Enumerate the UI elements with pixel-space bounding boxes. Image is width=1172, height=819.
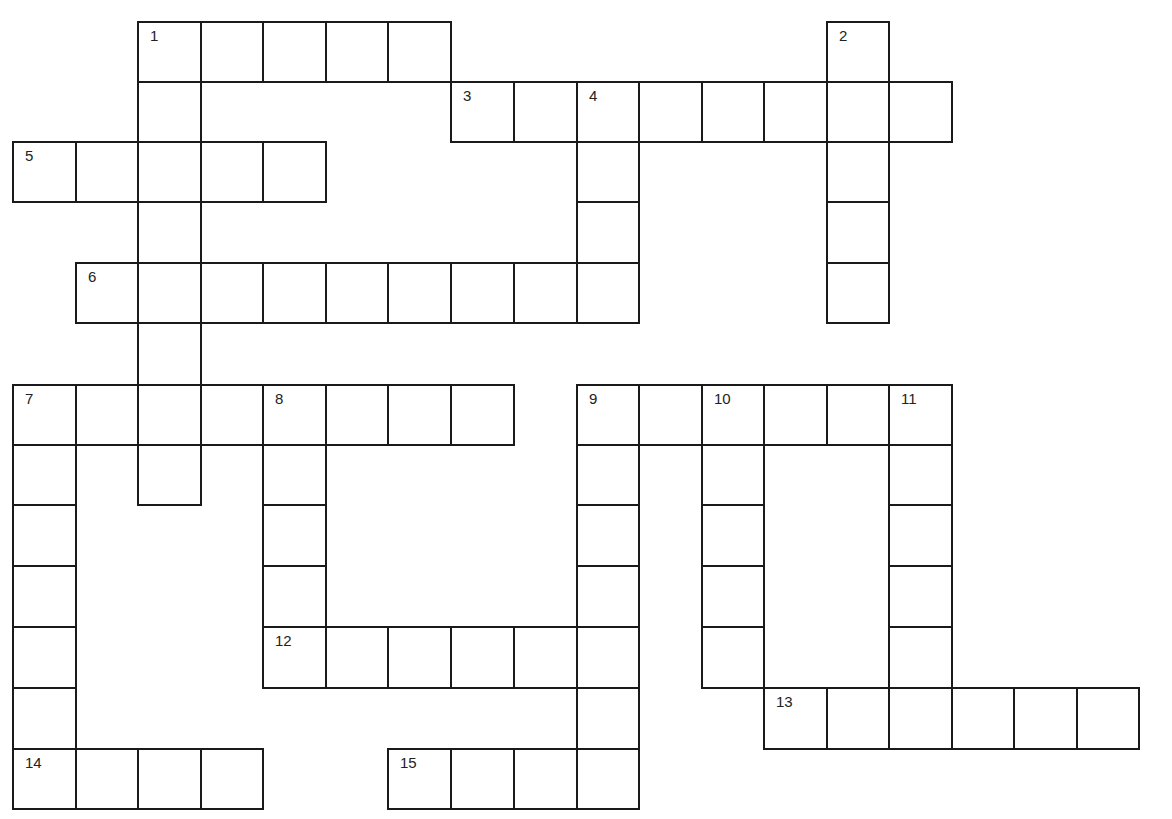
crossword-cell[interactable] bbox=[137, 262, 202, 324]
crossword-cell[interactable] bbox=[638, 81, 703, 143]
cell-letter-input[interactable] bbox=[452, 750, 513, 808]
crossword-cell[interactable] bbox=[325, 262, 389, 324]
crossword-cell[interactable] bbox=[12, 687, 77, 750]
cell-letter-input[interactable] bbox=[389, 628, 450, 687]
crossword-cell[interactable] bbox=[387, 21, 452, 83]
cell-letter-input[interactable] bbox=[703, 567, 763, 626]
cell-letter-input[interactable] bbox=[1078, 689, 1138, 748]
cell-letter-input[interactable] bbox=[389, 386, 450, 444]
crossword-cell[interactable] bbox=[888, 444, 953, 506]
cell-letter-input[interactable] bbox=[578, 750, 638, 808]
cell-letter-input[interactable] bbox=[139, 83, 200, 141]
cell-letter-input[interactable] bbox=[14, 446, 75, 504]
crossword-cell[interactable]: 13 bbox=[763, 687, 828, 750]
crossword-cell[interactable] bbox=[701, 81, 765, 143]
cell-letter-input[interactable] bbox=[890, 567, 951, 626]
crossword-cell[interactable]: 6 bbox=[75, 262, 139, 324]
crossword-cell[interactable] bbox=[763, 384, 828, 446]
cell-letter-input[interactable] bbox=[765, 386, 826, 444]
cell-letter-input[interactable] bbox=[327, 23, 387, 81]
cell-letter-input[interactable] bbox=[389, 23, 450, 81]
cell-letter-input[interactable] bbox=[578, 203, 638, 262]
cell-letter-input[interactable] bbox=[828, 386, 888, 444]
crossword-cell[interactable] bbox=[826, 201, 890, 264]
crossword-cell[interactable] bbox=[450, 626, 515, 689]
cell-letter-input[interactable] bbox=[890, 386, 951, 444]
crossword-cell[interactable] bbox=[75, 384, 139, 446]
cell-letter-input[interactable] bbox=[703, 628, 763, 687]
cell-letter-input[interactable] bbox=[14, 689, 75, 748]
cell-letter-input[interactable] bbox=[703, 83, 763, 141]
crossword-cell[interactable] bbox=[200, 141, 264, 203]
cell-letter-input[interactable] bbox=[264, 264, 325, 322]
crossword-cell[interactable] bbox=[513, 748, 578, 810]
crossword-cell[interactable] bbox=[826, 687, 890, 750]
cell-letter-input[interactable] bbox=[578, 264, 638, 322]
cell-letter-input[interactable] bbox=[139, 750, 200, 808]
crossword-cell[interactable] bbox=[576, 504, 640, 567]
cell-letter-input[interactable] bbox=[14, 386, 75, 444]
cell-letter-input[interactable] bbox=[703, 386, 763, 444]
crossword-cell[interactable]: 5 bbox=[12, 141, 77, 203]
crossword-cell[interactable]: 15 bbox=[387, 748, 452, 810]
crossword-cell[interactable] bbox=[75, 748, 139, 810]
crossword-cell[interactable] bbox=[701, 565, 765, 628]
crossword-cell[interactable]: 10 bbox=[701, 384, 765, 446]
crossword-cell[interactable] bbox=[137, 81, 202, 143]
crossword-cell[interactable]: 2 bbox=[826, 21, 890, 83]
cell-letter-input[interactable] bbox=[202, 750, 262, 808]
cell-letter-input[interactable] bbox=[828, 23, 888, 81]
crossword-cell[interactable] bbox=[75, 141, 139, 203]
cell-letter-input[interactable] bbox=[14, 143, 75, 201]
crossword-cell[interactable]: 11 bbox=[888, 384, 953, 446]
crossword-cell[interactable]: 8 bbox=[262, 384, 327, 446]
cell-letter-input[interactable] bbox=[890, 446, 951, 504]
cell-letter-input[interactable] bbox=[452, 264, 513, 322]
crossword-cell[interactable] bbox=[137, 444, 202, 506]
cell-letter-input[interactable] bbox=[765, 83, 826, 141]
cell-letter-input[interactable] bbox=[77, 750, 137, 808]
cell-letter-input[interactable] bbox=[578, 143, 638, 201]
cell-letter-input[interactable] bbox=[264, 567, 325, 626]
crossword-cell[interactable]: 14 bbox=[12, 748, 77, 810]
cell-letter-input[interactable] bbox=[139, 203, 200, 262]
crossword-cell[interactable] bbox=[701, 626, 765, 689]
cell-letter-input[interactable] bbox=[452, 628, 513, 687]
crossword-cell[interactable] bbox=[638, 384, 703, 446]
cell-letter-input[interactable] bbox=[890, 506, 951, 565]
cell-letter-input[interactable] bbox=[139, 446, 200, 504]
crossword-cell[interactable] bbox=[450, 262, 515, 324]
cell-letter-input[interactable] bbox=[890, 628, 951, 687]
crossword-cell[interactable] bbox=[200, 21, 264, 83]
crossword-cell[interactable] bbox=[137, 201, 202, 264]
crossword-cell[interactable] bbox=[325, 21, 389, 83]
cell-letter-input[interactable] bbox=[264, 506, 325, 565]
crossword-cell[interactable]: 7 bbox=[12, 384, 77, 446]
cell-letter-input[interactable] bbox=[640, 83, 701, 141]
crossword-cell[interactable] bbox=[951, 687, 1015, 750]
cell-letter-input[interactable] bbox=[890, 689, 951, 748]
cell-letter-input[interactable] bbox=[578, 83, 638, 141]
cell-letter-input[interactable] bbox=[1015, 689, 1076, 748]
crossword-cell[interactable] bbox=[1013, 687, 1078, 750]
cell-letter-input[interactable] bbox=[264, 143, 325, 201]
crossword-cell[interactable] bbox=[701, 504, 765, 567]
cell-letter-input[interactable] bbox=[327, 264, 387, 322]
cell-letter-input[interactable] bbox=[139, 324, 200, 384]
cell-letter-input[interactable] bbox=[77, 264, 137, 322]
cell-letter-input[interactable] bbox=[77, 143, 137, 201]
cell-letter-input[interactable] bbox=[202, 143, 262, 201]
cell-letter-input[interactable] bbox=[452, 83, 513, 141]
crossword-cell[interactable] bbox=[513, 626, 578, 689]
cell-letter-input[interactable] bbox=[578, 506, 638, 565]
cell-letter-input[interactable] bbox=[264, 386, 325, 444]
crossword-cell[interactable] bbox=[888, 626, 953, 689]
crossword-cell[interactable] bbox=[576, 748, 640, 810]
crossword-cell[interactable] bbox=[137, 322, 202, 386]
crossword-cell[interactable] bbox=[137, 748, 202, 810]
crossword-cell[interactable] bbox=[576, 687, 640, 750]
crossword-cell[interactable] bbox=[262, 504, 327, 567]
cell-letter-input[interactable] bbox=[828, 689, 888, 748]
crossword-cell[interactable] bbox=[137, 141, 202, 203]
crossword-cell[interactable] bbox=[1076, 687, 1140, 750]
